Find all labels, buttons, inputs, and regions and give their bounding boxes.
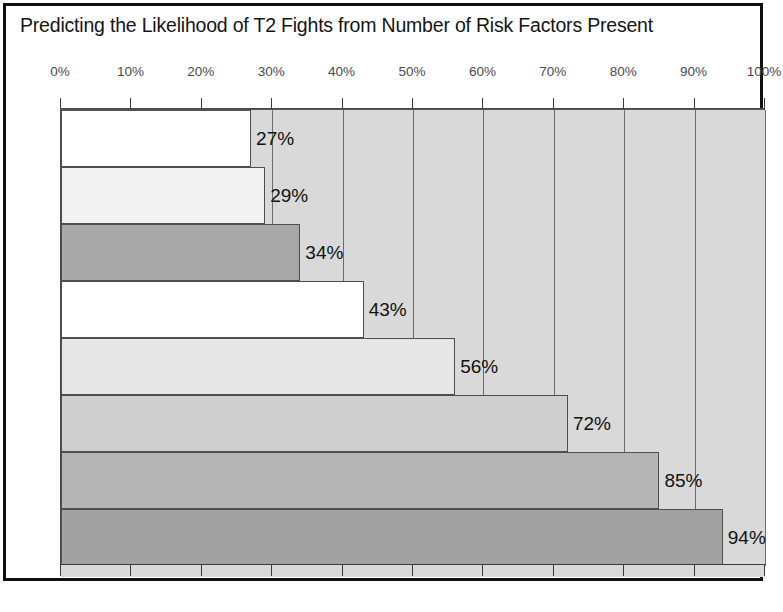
chart-frame: Predicting the Likelihood of T2 Fights f… bbox=[3, 3, 763, 581]
bar-value-label: 85% bbox=[664, 470, 702, 492]
bar-value-label: 94% bbox=[728, 527, 766, 549]
bar-series: 27%29%34%43%56%72%85%94% bbox=[61, 110, 765, 566]
plot-area: 27%29%34%43%56%72%85%94% bbox=[60, 109, 765, 566]
x-axis-tick-mark bbox=[764, 565, 765, 576]
bar-value-label: 34% bbox=[305, 242, 343, 264]
bar-row[interactable]: 34% bbox=[61, 224, 765, 281]
bar[interactable] bbox=[61, 281, 364, 338]
bar-row[interactable]: 94% bbox=[61, 509, 765, 566]
bar-row[interactable]: 85% bbox=[61, 452, 765, 509]
x-axis-tick-mark bbox=[342, 565, 343, 576]
x-axis-tick-label: 20% bbox=[187, 64, 214, 79]
x-axis-tick-labels: 0%10%20%30%40%50%60%70%80%90%100% bbox=[6, 64, 766, 86]
x-axis-tick-mark bbox=[271, 565, 272, 576]
x-axis-tick-mark bbox=[623, 565, 624, 576]
x-axis-tick-mark bbox=[201, 565, 202, 576]
x-axis-tick-mark bbox=[412, 565, 413, 576]
bar[interactable] bbox=[61, 338, 455, 395]
bar-value-label: 43% bbox=[369, 299, 407, 321]
x-axis-tick-label: 50% bbox=[398, 64, 425, 79]
bar-value-label: 27% bbox=[256, 128, 294, 150]
x-axis-tick-label: 60% bbox=[469, 64, 496, 79]
bar-value-label: 72% bbox=[573, 413, 611, 435]
x-axis-tick-label: 70% bbox=[539, 64, 566, 79]
x-axis-tick-label: 80% bbox=[610, 64, 637, 79]
gridline bbox=[765, 110, 766, 566]
bar-row[interactable]: 43% bbox=[61, 281, 765, 338]
x-axis-tick-mark bbox=[60, 565, 61, 576]
bar-value-label: 56% bbox=[460, 356, 498, 378]
x-axis-tick-mark bbox=[130, 565, 131, 576]
x-axis-tick-label: 10% bbox=[117, 64, 144, 79]
x-axis-bottom-ticks bbox=[60, 565, 764, 577]
bar-row[interactable]: 72% bbox=[61, 395, 765, 452]
bar[interactable] bbox=[61, 110, 251, 167]
bar-row[interactable]: 27% bbox=[61, 110, 765, 167]
chart-title: Predicting the Likelihood of T2 Fights f… bbox=[20, 14, 750, 37]
x-axis-tick-mark bbox=[482, 565, 483, 576]
bar[interactable] bbox=[61, 167, 265, 224]
bar-row[interactable]: 29% bbox=[61, 167, 765, 224]
bar-value-label: 29% bbox=[270, 185, 308, 207]
x-axis-tick-label: 30% bbox=[258, 64, 285, 79]
bar[interactable] bbox=[61, 395, 568, 452]
x-axis-tick-mark bbox=[694, 565, 695, 576]
bar-row[interactable]: 56% bbox=[61, 338, 765, 395]
bar[interactable] bbox=[61, 509, 723, 566]
bar[interactable] bbox=[61, 452, 659, 509]
bar[interactable] bbox=[61, 224, 300, 281]
x-axis-tick-mark bbox=[553, 565, 554, 576]
x-axis-tick-label: 100% bbox=[747, 64, 782, 79]
x-axis-tick-label: 40% bbox=[328, 64, 355, 79]
x-axis-tick-label: 90% bbox=[680, 64, 707, 79]
x-axis-tick-label: 0% bbox=[50, 64, 70, 79]
